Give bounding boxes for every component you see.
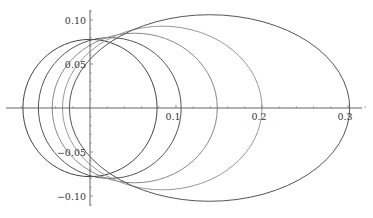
axes bbox=[6, 10, 362, 206]
x-tick-label: 0.1 bbox=[165, 111, 180, 122]
y-tick-label: 0.10 bbox=[65, 15, 86, 26]
x-tick-label: 0.3 bbox=[337, 111, 352, 122]
y-tick-label: −0.05 bbox=[57, 147, 86, 158]
x-tick-label: 0.2 bbox=[251, 111, 266, 122]
y-tick-label: −0.10 bbox=[57, 191, 86, 202]
ellipse-plot: 0.10.20.30.100.05−0.05−0.10 bbox=[0, 0, 373, 218]
plot-canvas: 0.10.20.30.100.05−0.05−0.10 bbox=[0, 0, 373, 218]
y-tick-label: 0.05 bbox=[65, 59, 86, 70]
